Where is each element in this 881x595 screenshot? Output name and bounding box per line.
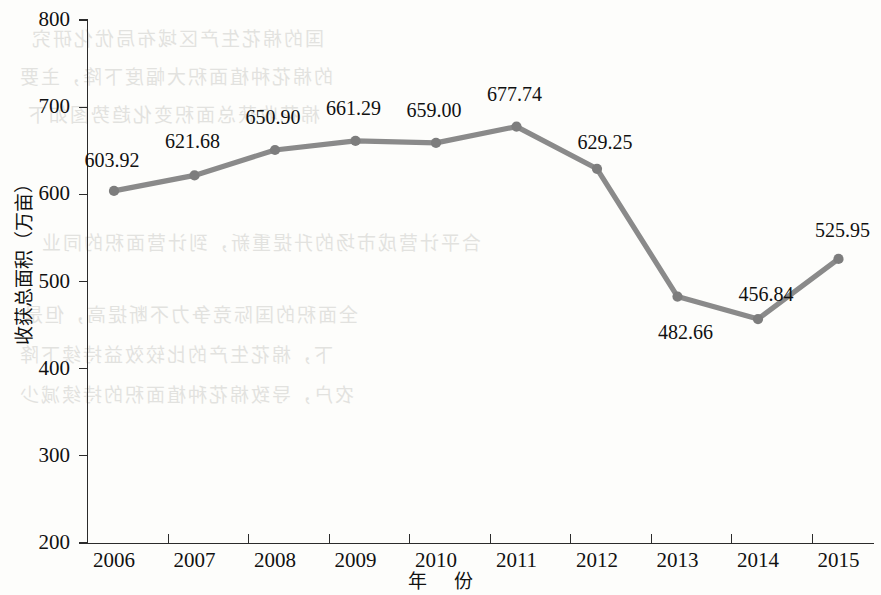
data-point-label: 629.25 [550, 131, 660, 154]
series-marker [270, 145, 280, 155]
series-marker [431, 138, 441, 148]
data-point-label: 677.74 [460, 83, 570, 106]
series-marker [109, 186, 119, 196]
data-point-label: 482.66 [631, 321, 741, 344]
data-point-label: 456.84 [711, 283, 821, 306]
data-point-label: 525.95 [788, 219, 881, 242]
series-marker [753, 314, 763, 324]
series-marker [189, 170, 199, 180]
data-point-label: 621.68 [138, 130, 248, 153]
series-marker [672, 292, 682, 302]
series-marker [592, 164, 602, 174]
series-marker [511, 122, 521, 132]
series-marker [350, 136, 360, 146]
chart-figure: 国的棉花生产区域布局优化研究 的棉花种植面积大幅度下降，主要 棉花收获总面积变化… [0, 0, 881, 595]
series-marker [833, 254, 843, 264]
